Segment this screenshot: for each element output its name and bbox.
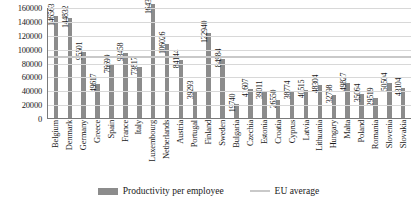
gridline [48,77,411,78]
x-label-slot: Croatia [271,120,285,182]
x-axis-tick-label: Netherlands [162,120,171,159]
x-axis-tick-label: Latvia [301,120,310,141]
bar: 50504 [387,83,392,118]
x-axis-tick-label: Sweden [218,120,227,146]
legend-label: Productivity per employee [123,186,224,196]
x-label-slot: Romania [368,120,382,182]
bar: 49827 [345,83,350,118]
y-axis-tick-label: 100000 [18,45,42,54]
bar-value-label: 19740 [229,94,237,113]
x-axis-tick-label: Cyprus [287,120,296,143]
bar-value-label: 73817 [131,57,139,76]
bar-value-label: 29519 [367,87,375,106]
gridline [48,22,411,23]
bar-value-label: 40515 [298,80,306,99]
x-label-slot: Czechia [243,120,257,182]
y-axis-tick-label: 80000 [22,59,42,68]
x-axis-tick-label: Romania [371,120,380,149]
legend-bar-swatch [98,188,118,195]
y-axis-tick-label: 60000 [22,73,42,82]
x-label-slot: Spain [104,120,118,182]
x-axis-tick-label: Portugal [190,120,199,147]
x-label-slot: Cyprus [285,120,299,182]
x-axis-labels: BelgiumDenmarkGermanyGreeceSpainFranceIt… [47,120,411,182]
y-axis-tick-label: 20000 [22,101,42,110]
x-axis-tick-label: Slovenia [385,120,394,148]
bar-value-label: 35064 [354,83,362,102]
productivity-bar-chart: 1600001400001200001000008000060000400002… [0,0,417,220]
bar: 84984 [220,59,225,118]
x-axis-tick-label: Hungary [329,120,338,148]
x-label-slot: Hungary [326,120,340,182]
eu-average-line [48,56,411,58]
legend-line-swatch [250,190,270,192]
gridline [48,64,411,65]
x-label-slot: Austria [173,120,187,182]
bar: 41607 [248,89,253,118]
y-axis-tick-label: 0 [38,115,42,124]
x-axis-tick-label: Lithuania [315,120,324,151]
x-label-slot: Estonia [257,120,271,182]
x-label-slot: Italy [132,120,146,182]
x-axis-tick-label: Greece [92,120,101,143]
bar-value-label: 49617 [90,73,98,92]
gridline [48,36,411,37]
gridline [48,50,411,51]
bar-value-label: 50504 [381,73,389,92]
x-axis-tick-label: Malta [343,120,352,139]
x-label-slot: Poland [354,120,368,182]
x-label-slot: Slovakia [396,120,410,182]
x-axis-tick-label: Finland [204,120,213,145]
bar: 95501 [81,52,86,118]
bar: 49617 [95,84,100,118]
x-label-slot: Belgium [48,120,62,182]
x-label-slot: Slovenia [382,120,396,182]
bar-value-label: 122940 [201,21,209,43]
bar-value-label: 93458 [117,43,125,62]
x-label-slot: Lithuania [313,120,327,182]
bar: 144832 [68,18,73,118]
x-axis-tick-label: Slovakia [399,120,408,148]
x-label-slot: Netherlands [159,120,173,182]
bar-value-label: 43104 [395,78,403,97]
bar-value-label: 84144 [173,49,181,68]
bar-value-label: 39011 [256,81,264,99]
legend-label: EU average [275,186,320,196]
x-label-slot: Sweden [215,120,229,182]
x-axis-tick-label: Czechia [245,120,254,146]
bar-value-label: 32798 [326,85,334,104]
bar: 26550 [276,100,281,118]
y-axis-tick-label: 120000 [18,31,42,40]
y-axis-tick-label: 140000 [18,17,42,26]
x-label-slot: Finland [201,120,215,182]
bar: 32798 [332,95,337,118]
bar-value-label: 49827 [340,73,348,92]
x-label-slot: Malta [340,120,354,182]
legend-item[interactable]: EU average [250,186,320,196]
x-label-slot: France [118,120,132,182]
bar-value-label: 41607 [242,79,250,98]
x-label-slot: Latvia [299,120,313,182]
bar-value-label: 84984 [215,49,223,68]
x-label-slot: Portugal [187,120,201,182]
x-axis-tick-label: Spain [106,120,115,138]
y-axis-tick-label: 160000 [18,4,42,13]
gridline [48,91,411,92]
y-axis: 1600001400001200001000008000060000400002… [0,8,45,119]
gridline [48,105,411,106]
x-label-slot: Denmark [62,120,76,182]
legend-item[interactable]: Productivity per employee [98,186,224,196]
x-label-slot: Greece [90,120,104,182]
x-axis-tick-label: Austria [176,120,185,144]
x-axis-tick-label: Germany [78,120,87,150]
bar: 48304 [318,85,323,119]
bar-value-label: 39293 [187,80,195,99]
bar: 84144 [179,60,184,118]
bar: 43104 [401,88,406,118]
bar: 29519 [373,98,378,118]
x-axis-tick-label: Luxembourg [148,120,157,162]
bar: 40515 [304,90,309,118]
x-axis-tick-label: Italy [134,120,143,135]
x-axis-tick-label: Denmark [64,120,73,150]
bar: 73817 [137,67,142,118]
